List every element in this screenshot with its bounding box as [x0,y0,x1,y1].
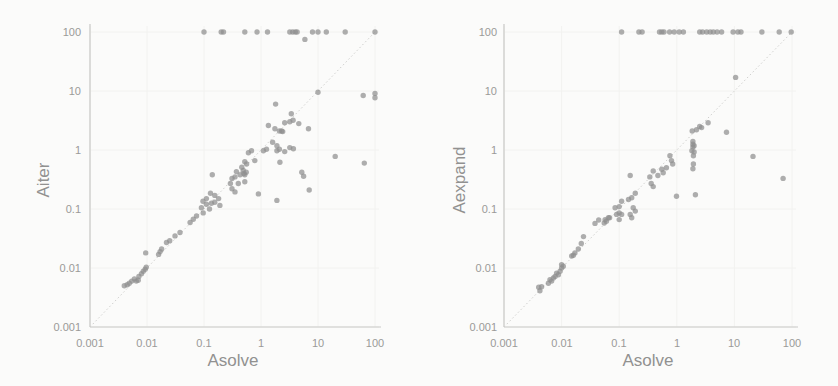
data-point [670,161,675,166]
left-x-tick-labels: 0.001 0.01 0.1 1 10 100 [76,337,384,349]
y-tick-label: 0.01 [60,262,81,274]
y-tick-label: 0.001 [53,321,81,333]
data-point [750,154,755,159]
data-point [242,179,247,184]
data-point [265,29,270,34]
data-point [372,29,377,34]
data-point [221,29,226,34]
data-point [667,153,672,158]
data-point [315,90,320,95]
data-point [307,187,312,192]
data-point [277,160,282,165]
x-tick-label: 10 [728,337,740,349]
data-point [201,29,206,34]
data-point [232,189,237,194]
data-point [204,202,209,207]
data-point [177,230,182,235]
x-tick-label: 0.01 [136,337,157,349]
data-point [651,168,656,173]
data-point [254,29,259,34]
data-point [301,174,306,179]
data-point [617,204,622,209]
data-point [724,130,729,135]
data-point [681,29,686,34]
data-point [664,165,669,170]
data-point [691,161,696,166]
data-point [280,129,285,134]
data-point [216,196,221,201]
data-point [730,29,735,34]
data-point [661,170,666,175]
data-point [244,161,249,166]
x-tick-label: 1 [258,337,264,349]
right-x-tick-labels: 0.001 0.01 0.1 1 10 100 [490,337,801,349]
data-point [236,181,241,186]
y-axis-title: Aexpand [450,146,469,213]
data-point [633,208,638,213]
data-point [581,234,586,239]
x-tick-label: 100 [366,337,384,349]
x-tick-label: 0.1 [196,337,211,349]
data-point [539,284,544,289]
data-point [290,118,295,123]
data-point [264,147,269,152]
data-point [273,101,278,106]
data-point [639,29,644,34]
data-point [561,264,566,269]
data-point [738,29,743,34]
data-point [324,29,329,34]
x-tick-label: 10 [312,337,324,349]
data-point [315,29,320,34]
data-point [228,181,233,186]
data-point [667,29,672,34]
data-point [619,29,624,34]
data-point [210,172,215,177]
data-point [579,241,584,246]
data-point [617,217,622,222]
data-point [291,146,296,151]
data-point [629,195,634,200]
data-point [705,120,710,125]
data-point [282,120,287,125]
data-point [733,75,738,80]
y-tick-label: 10 [69,85,81,97]
scatter-plots-canvas: 0.001 0.01 0.1 1 10 100 0.001 0.01 0.1 1… [0,0,838,386]
data-point [655,173,660,178]
data-point [661,29,666,34]
data-point [266,123,271,128]
y-axis-title: Aiter [34,162,53,197]
data-point [199,205,204,210]
data-point [780,176,785,181]
data-point [252,158,257,163]
data-point [576,246,581,251]
data-point [699,125,704,130]
data-point [217,203,222,208]
scatter-figure: 0.001 0.01 0.1 1 10 100 0.001 0.01 0.1 1… [0,0,838,386]
left-y-tick-labels: 0.001 0.01 0.1 1 10 100 [53,26,81,333]
data-point [619,212,624,217]
x-tick-label: 0.1 [611,337,626,349]
data-point [651,184,656,189]
data-point [691,149,696,154]
y-tick-label: 1 [75,144,81,156]
y-tick-label: 100 [479,26,497,38]
x-tick-label: 1 [674,337,680,349]
data-point [628,173,633,178]
data-point [172,233,177,238]
data-point [647,174,652,179]
data-point [619,199,624,204]
data-point [719,29,724,34]
x-tick-label: 0.01 [551,337,572,349]
left-plot [90,24,381,327]
right-y-tick-labels: 0.001 0.01 0.1 1 10 100 [469,26,497,333]
data-point [362,160,367,165]
data-point [361,93,366,98]
data-point [277,147,282,152]
data-point [159,246,164,251]
data-point [201,210,206,215]
data-point [777,29,782,34]
y-tick-label: 0.01 [476,262,497,274]
x-axis-title: Asolve [622,351,673,370]
data-point [674,194,679,199]
data-point [302,37,307,42]
